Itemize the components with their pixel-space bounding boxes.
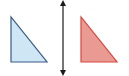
- reflection-diagram: [0, 0, 129, 76]
- reflected-triangle: [81, 17, 117, 62]
- original-triangle: [11, 17, 47, 62]
- diagram-canvas: [0, 0, 129, 76]
